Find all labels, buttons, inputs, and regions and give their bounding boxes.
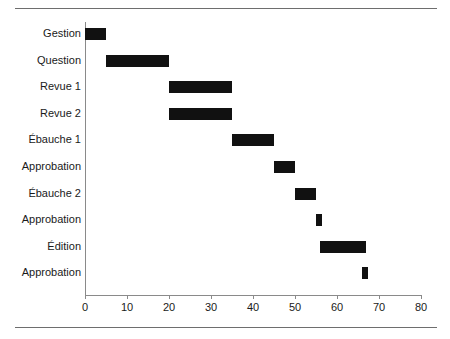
gantt-bar [106,55,169,67]
x-axis-tick-label: 60 [317,301,357,314]
x-axis-tick [85,295,86,299]
gantt-bar [169,108,232,120]
x-axis-tick-label: 70 [359,301,399,314]
gantt-bar [169,81,232,93]
gantt-bar [320,241,366,253]
x-axis-tick [253,295,254,299]
x-axis-tick-label: 10 [107,301,147,314]
gantt-bar [232,134,274,146]
x-axis-tick [337,295,338,299]
gantt-bar [274,161,295,173]
gantt-bar [362,267,368,279]
x-axis-tick-label: 50 [275,301,315,314]
plot-area: 01020304050607080GestionQuestionRevue 1R… [0,0,450,339]
x-axis-tick [169,295,170,299]
y-axis-line [85,22,86,295]
gantt-chart-figure: 01020304050607080GestionQuestionRevue 1R… [0,0,450,339]
task-row-label: Ébauche 1 [0,133,81,146]
task-row-label: Gestion [0,27,81,40]
gantt-bar [295,188,316,200]
x-axis-tick [127,295,128,299]
task-row-label: Revue 2 [0,107,81,120]
x-axis-tick [379,295,380,299]
task-row-label: Approbation [0,213,81,226]
gantt-bar [316,214,322,226]
task-row-label: Approbation [0,160,81,173]
x-axis-tick-label: 0 [65,301,105,314]
task-row-label: Approbation [0,266,81,279]
x-axis-tick-label: 40 [233,301,273,314]
x-axis-tick-label: 80 [401,301,441,314]
gantt-bar [85,28,106,40]
x-axis-tick-label: 30 [191,301,231,314]
x-axis-tick [211,295,212,299]
task-row-label: Ébauche 2 [0,187,81,200]
x-axis-tick-label: 20 [149,301,189,314]
task-row-label: Revue 1 [0,80,81,93]
task-row-label: Édition [0,240,81,253]
x-axis-tick [421,295,422,299]
task-row-label: Question [0,54,81,67]
x-axis-tick [295,295,296,299]
